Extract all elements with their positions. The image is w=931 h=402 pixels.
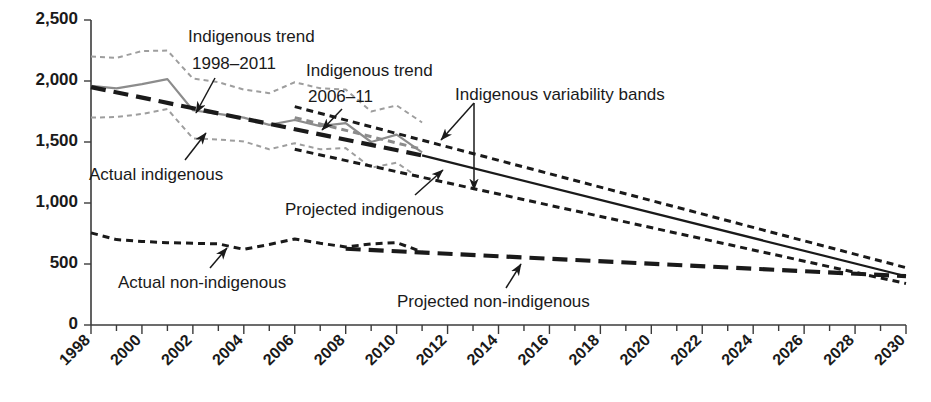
annotation-projected-indigenous: Projected indigenous bbox=[285, 200, 444, 219]
annotation-actual-indigenous: Actual indigenous bbox=[89, 165, 223, 184]
x-axis-tick-labels: 1998200020022004200620082010201220142016… bbox=[56, 331, 908, 368]
annotation-indigenous-trend-1998-2011-line1: Indigenous trend bbox=[188, 27, 315, 46]
leader-projected-non-indigenous bbox=[506, 264, 521, 288]
x-axis-ticks bbox=[91, 325, 906, 334]
x-tick-label: 2018 bbox=[565, 331, 602, 368]
x-tick-label: 2002 bbox=[158, 331, 195, 368]
chart-figure: 05001,0001,5002,0002,500 199820002002200… bbox=[0, 0, 931, 402]
x-tick-label: 2008 bbox=[311, 331, 348, 368]
leader-actual-non-indigenous bbox=[210, 248, 227, 268]
y-axis-tick-labels: 05001,0001,5002,0002,500 bbox=[35, 9, 78, 333]
annotation-indigenous-trend-2006-11-line2: 2006–11 bbox=[308, 87, 373, 106]
x-tick-label: 2022 bbox=[667, 331, 704, 368]
x-tick-label: 2014 bbox=[463, 331, 500, 368]
leader-indigenous-trend-1998-2011 bbox=[196, 78, 215, 113]
x-tick-label: 2016 bbox=[514, 331, 551, 368]
annotation-indigenous-trend-2006-11-line1: Indigenous trend bbox=[306, 61, 433, 80]
x-tick-label: 2006 bbox=[260, 331, 297, 368]
y-tick-label: 500 bbox=[50, 253, 78, 272]
x-tick-label: 2020 bbox=[616, 331, 653, 368]
x-tick-label: 1998 bbox=[56, 331, 93, 368]
annotation-projected-non-indigenous: Projected non-indigenous bbox=[397, 292, 590, 311]
y-tick-label: 1,500 bbox=[35, 131, 78, 150]
y-tick-label: 2,500 bbox=[35, 9, 78, 28]
x-tick-label: 2000 bbox=[107, 331, 144, 368]
series-line bbox=[346, 249, 906, 276]
y-tick-label: 2,000 bbox=[35, 70, 78, 89]
x-tick-label: 2024 bbox=[718, 331, 755, 368]
chart-canvas: 05001,0001,5002,0002,500 199820002002200… bbox=[0, 0, 931, 402]
y-tick-label: 1,000 bbox=[35, 192, 78, 211]
annotation-indigenous-variability-bands: Indigenous variability bands bbox=[455, 85, 665, 104]
x-tick-label: 2026 bbox=[769, 331, 806, 368]
leader-variability-band-upper bbox=[441, 103, 474, 140]
x-tick-label: 2010 bbox=[362, 331, 399, 368]
x-tick-label: 2012 bbox=[412, 331, 449, 368]
x-tick-label: 2030 bbox=[871, 331, 908, 368]
series-line bbox=[295, 107, 906, 268]
annotation-labels: Indigenous trend 1998–2011 Indigenous tr… bbox=[89, 27, 665, 311]
annotation-indigenous-trend-1998-2011-line2: 1998–2011 bbox=[192, 54, 276, 73]
leader-actual-indigenous bbox=[185, 133, 206, 160]
x-tick-label: 2004 bbox=[209, 331, 246, 368]
leader-projected-indigenous bbox=[415, 170, 443, 195]
annotation-actual-non-indigenous: Actual non-indigenous bbox=[118, 273, 286, 292]
x-tick-label: 2028 bbox=[820, 331, 857, 368]
y-tick-label: 0 bbox=[69, 314, 78, 333]
